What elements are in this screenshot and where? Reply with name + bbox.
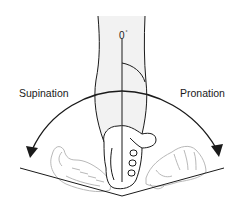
neutral-fist [104, 126, 156, 189]
supination-label: Supination [19, 87, 69, 99]
zero-degree-label: 0° [119, 29, 128, 41]
pronated-hand-ghost [146, 146, 206, 188]
pronation-arrowhead-icon [211, 144, 223, 157]
pronation-label: Pronation [180, 87, 225, 99]
supination-arrowhead-icon [26, 146, 38, 158]
